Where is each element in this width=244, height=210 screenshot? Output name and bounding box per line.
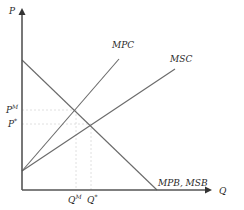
market-quantity-label: QM xyxy=(68,193,82,205)
optimal-quantity-label: Q* xyxy=(87,193,97,205)
msc-label: MSC xyxy=(169,54,192,64)
msc-curve xyxy=(22,69,175,171)
demand-label: MPB, MSB xyxy=(157,178,208,188)
optimal-price-label: P* xyxy=(7,117,17,129)
x-axis-label: Q xyxy=(219,186,227,196)
externality-diagram: P Q MPC MSC MPB, MSB PM P* QM Q* xyxy=(0,0,244,210)
y-axis-label: P xyxy=(8,6,16,16)
demand-curve-mpb-msb xyxy=(22,60,157,190)
y-axis-arrow-icon xyxy=(19,8,26,15)
mpc-curve xyxy=(22,59,119,171)
mpc-label: MPC xyxy=(111,40,134,50)
market-price-label: PM xyxy=(5,103,19,115)
